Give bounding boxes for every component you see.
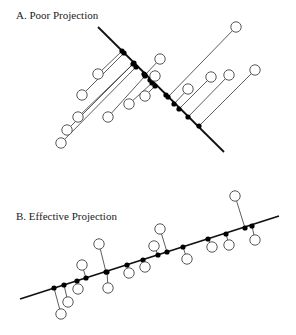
data-point [250, 235, 260, 245]
data-point [140, 262, 150, 272]
data-point [93, 69, 103, 79]
data-point [224, 70, 234, 80]
projected-point [164, 249, 169, 254]
data-point [103, 283, 113, 293]
panel-b-effective-projection [20, 191, 279, 319]
panel-a-poor-projection [56, 22, 260, 152]
data-point [183, 84, 193, 94]
data-point [150, 71, 160, 81]
data-point [230, 191, 240, 201]
data-point [56, 309, 66, 319]
data-point [182, 254, 192, 264]
projected-point [185, 114, 190, 119]
data-point [103, 112, 113, 122]
data-point [94, 239, 104, 249]
projection-diagram [0, 0, 296, 335]
projected-point [163, 92, 168, 97]
data-point [250, 65, 260, 75]
projected-point [249, 223, 254, 228]
data-point [63, 297, 73, 307]
projected-point [155, 252, 160, 257]
projected-point [180, 244, 185, 249]
projected-point [133, 64, 138, 69]
projected-point [242, 225, 247, 230]
data-point [56, 138, 66, 148]
data-point [231, 22, 241, 32]
data-point [140, 91, 150, 101]
projected-point [51, 285, 56, 290]
projected-point [223, 231, 228, 236]
data-point [206, 72, 216, 82]
data-point [155, 54, 165, 64]
projected-point [74, 278, 79, 283]
data-point [124, 99, 134, 109]
projected-point [196, 123, 201, 128]
projected-point [205, 236, 210, 241]
data-point [73, 284, 83, 294]
projected-point [83, 275, 88, 280]
projected-point [104, 269, 109, 274]
projected-point [61, 282, 66, 287]
data-point [124, 268, 134, 278]
data-point [73, 112, 83, 122]
data-point [155, 224, 165, 234]
projection-axis [98, 27, 224, 152]
data-point [149, 241, 159, 251]
data-point [77, 260, 87, 270]
projected-point [171, 101, 176, 106]
projected-point [124, 262, 129, 267]
data-point [224, 240, 234, 250]
projected-point [121, 50, 126, 55]
data-point [77, 90, 87, 100]
projected-point [141, 71, 146, 76]
projection-axis [20, 216, 279, 299]
data-point [62, 125, 72, 135]
data-point [207, 242, 217, 252]
projected-point [176, 106, 181, 111]
